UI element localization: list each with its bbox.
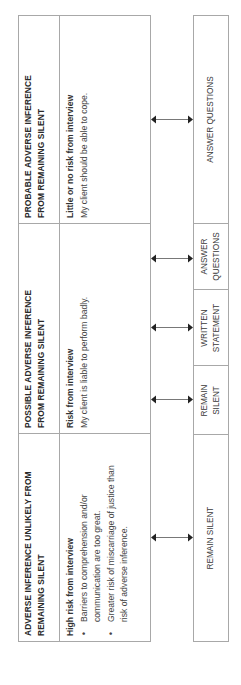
option-written-statement: WRITTEN STATEMENT: [193, 290, 229, 366]
bullet-icon: •: [78, 632, 92, 635]
bullet-text: Barriers to comprehension and/or: [78, 440, 92, 622]
option-answer-questions-possible: ANSWER QUESTIONS: [193, 223, 229, 290]
option-label: SILENT: [211, 385, 223, 417]
option-label: STATEMENT: [211, 304, 223, 352]
list-item: • Greater risk of miscarriage of justice…: [105, 440, 132, 636]
double-arrow-icon: [151, 399, 193, 400]
bullet-icon: •: [105, 632, 119, 635]
risk-label: High risk from interview: [64, 440, 78, 636]
option-label: WRITTEN: [199, 304, 211, 352]
header-line: PROBABLE ADVERSE INFERENCE: [22, 21, 35, 218]
risk-description: My client should be able to cope.: [78, 21, 92, 218]
reason-list: • Barriers to comprehension and/or commu…: [78, 440, 132, 636]
adverse-inference-diagram: ADVERSE INFERENCE UNLIKELY FROM REMAININ…: [0, 0, 241, 685]
header-line: ADVERSE INFERENCE UNLIKELY FROM: [22, 440, 35, 636]
header-line: POSSIBLE ADVERSE INFERENCE: [22, 230, 35, 428]
double-arrow-icon: [151, 327, 193, 328]
bullet-text: communication are too great.: [91, 440, 105, 622]
option-label: ANSWER: [199, 232, 211, 280]
column-header-unlikely: ADVERSE INFERENCE UNLIKELY FROM REMAININ…: [18, 434, 59, 642]
column-header-probable: PROBABLE ADVERSE INFERENCE FROM REMAININ…: [18, 15, 59, 224]
option-remain-silent-possible: REMAIN SILENT: [193, 366, 229, 435]
option-label: REMAIN: [199, 385, 211, 417]
column-body-possible: Risk from interview My client is liable …: [59, 224, 151, 434]
option-label: ANSWER QUESTIONS: [205, 76, 217, 162]
header-line: FROM REMAINING SILENT: [35, 230, 48, 428]
option-remain-silent: REMAIN SILENT: [193, 434, 229, 642]
option-answer-questions: ANSWER QUESTIONS: [193, 15, 229, 224]
bullet-text: Greater risk of miscarriage of justice t…: [105, 440, 119, 622]
double-arrow-icon: [151, 119, 193, 120]
header-line: REMAINING SILENT: [35, 440, 48, 636]
risk-description: My client is liable to perform badly.: [78, 230, 92, 428]
column-body-probable: Little or no risk from interview My clie…: [59, 15, 151, 224]
bullet-text: risk of adverse inference.: [118, 440, 132, 622]
option-label: REMAIN SILENT: [205, 507, 217, 570]
option-label: QUESTIONS: [211, 232, 223, 280]
column-body-unlikely: High risk from interview • Barriers to c…: [59, 434, 151, 642]
risk-label: Risk from interview: [64, 230, 78, 428]
risk-label: Little or no risk from interview: [64, 21, 78, 218]
header-line: FROM REMAINING SILENT: [35, 21, 48, 218]
list-item: • Barriers to comprehension and/or commu…: [78, 440, 105, 636]
double-arrow-icon: [151, 537, 193, 538]
double-arrow-icon: [151, 258, 193, 259]
column-header-possible: POSSIBLE ADVERSE INFERENCE FROM REMAININ…: [18, 224, 59, 434]
